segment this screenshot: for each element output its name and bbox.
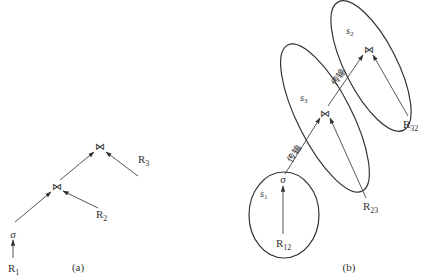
join-mid-symbol: ⋈ [52,181,62,192]
query-tree-diagram: ⋈ ⋈ σ R1 R2 R3 (a) 传输 传输 σ ⋈ ⋈ R12 R23 R… [0,0,430,279]
select-symbol: σ [10,228,16,240]
relation-r3: R3 [138,153,149,168]
relation-r1: R1 [8,262,19,277]
site-label-s1: s1 [260,188,268,201]
edge-transfer-select-to-join-s3 [285,118,320,174]
join-top-symbol: ⋈ [95,141,105,152]
diagram-a: ⋈ ⋈ σ R1 R2 R3 (a) [8,141,149,277]
diagram-b: 传输 传输 σ ⋈ ⋈ R12 R23 R32 s1 s3 s2 (b) [249,0,427,274]
transfer-label-1: 传输 [284,143,303,164]
edge-r32-to-join-s2 [373,55,408,116]
edge-join-mid-to-join-top [60,152,94,180]
relation-r12: R12 [276,237,291,252]
relation-r2: R2 [96,208,107,223]
site-label-s3: s3 [300,92,308,105]
site-label-s2: s2 [346,25,354,38]
edge-r2-to-join-mid [63,191,98,208]
edge-select-to-join-mid [15,192,51,222]
relation-r23: R23 [363,200,378,215]
join-s2-symbol: ⋈ [364,44,374,55]
select-symbol-b: σ [280,173,286,185]
caption-a: (a) [72,261,85,274]
caption-b: (b) [343,261,356,274]
edge-r23-to-join-s3 [330,118,366,198]
edge-r3-to-join-top [106,152,138,176]
join-s3-symbol: ⋈ [320,108,330,119]
